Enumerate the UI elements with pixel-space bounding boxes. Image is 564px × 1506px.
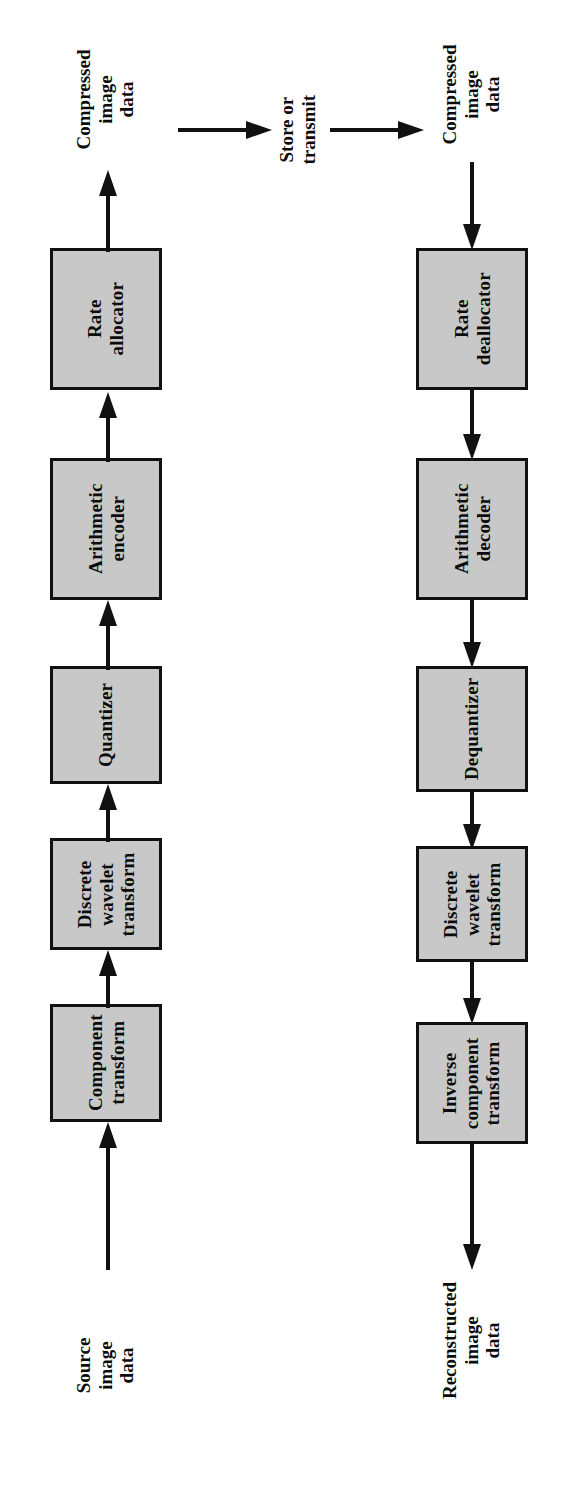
decoder-input-label-text: Compressed image data	[440, 44, 505, 144]
decoder-block-dequantizer[interactable]: Dequantizer	[416, 666, 528, 792]
encoder-block-component-transform[interactable]: Component transform	[50, 1004, 162, 1122]
encoder-block-rate-allocator[interactable]: Rate allocator	[50, 248, 162, 390]
encoder-block-discrete-wavelet-transform-label: Discrete wavelet transform	[74, 852, 139, 936]
encoder-block-component-transform-label: Component transform	[84, 1015, 127, 1112]
arrow-compressed-input-to-rate-deallocator	[460, 162, 484, 252]
encoder-block-discrete-wavelet-transform[interactable]: Discrete wavelet transform	[50, 838, 162, 950]
decoder-output-label-text: Reconstructed image data	[440, 1281, 505, 1398]
channel-label-text: Store or transmit	[276, 95, 319, 165]
arrow-rate-allocator-to-compressed-output	[96, 168, 120, 252]
encoder-output-label-text: Compressed image data	[74, 49, 139, 149]
diagram-canvas: Source image data Component transform Di…	[0, 0, 564, 1506]
decoder-block-discrete-wavelet-transform-label: Discrete wavelet transform	[440, 862, 505, 946]
decoder-block-arithmetic-decoder-label: Arithmetic decoder	[450, 484, 493, 575]
decoder-block-discrete-wavelet-transform[interactable]: Discrete wavelet transform	[416, 846, 528, 962]
arrow-component-transform-to-dwt	[96, 948, 120, 1008]
arrow-dequantizer-to-dwt	[460, 790, 484, 852]
decoder-block-dequantizer-label: Dequantizer	[461, 678, 483, 780]
arrow-source-to-component-transform	[96, 1120, 120, 1270]
decoder-block-arithmetic-decoder[interactable]: Arithmetic decoder	[416, 458, 528, 600]
encoder-output-label: Compressed image data	[44, 24, 168, 174]
encoder-block-arithmetic-encoder[interactable]: Arithmetic encoder	[50, 458, 162, 600]
arrow-rate-deallocator-to-arithmetic-decoder	[460, 388, 484, 462]
encoder-input-label: Source image data	[50, 1290, 162, 1440]
arrow-arithmetic-decoder-to-dequantizer	[460, 598, 484, 670]
decoder-output-label: Reconstructed image data	[406, 1250, 538, 1430]
decoder-block-rate-deallocator-label: Rate deallocator	[450, 273, 493, 366]
encoder-block-arithmetic-encoder-label: Arithmetic encoder	[84, 484, 127, 575]
encoder-block-quantizer-label: Quantizer	[95, 683, 117, 767]
encoder-block-rate-allocator-label: Rate allocator	[84, 282, 127, 356]
encoder-input-label-text: Source image data	[74, 1337, 139, 1393]
arrow-dwt-to-inverse-component-transform	[460, 960, 484, 1026]
arrow-quantizer-to-arithmetic-encoder	[96, 598, 120, 670]
arrow-dwt-to-quantizer	[96, 782, 120, 842]
arrow-arithmetic-encoder-to-rate-allocator	[96, 390, 120, 462]
decoder-block-inverse-component-transform[interactable]: Inverse component transform	[416, 1022, 528, 1144]
decoder-block-inverse-component-transform-label: Inverse component transform	[440, 1037, 505, 1129]
decoder-block-rate-deallocator[interactable]: Rate deallocator	[416, 248, 528, 390]
encoder-block-quantizer[interactable]: Quantizer	[50, 666, 162, 784]
decoder-input-label: Compressed image data	[410, 24, 534, 164]
